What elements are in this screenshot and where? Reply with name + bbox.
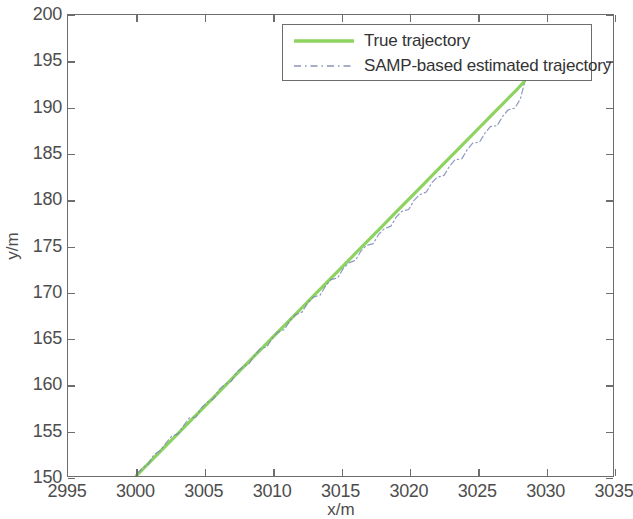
y-tick-label: 165 xyxy=(33,328,62,349)
x-tick-mark xyxy=(273,469,274,476)
x-tick-label: 3010 xyxy=(253,481,292,502)
legend-label-true-trajectory: True trajectory xyxy=(364,31,470,51)
legend-item-estimated-trajectory: SAMP-based estimated trajectory xyxy=(283,53,591,78)
x-tick-mark-top xyxy=(205,15,206,22)
y-tick-mark xyxy=(68,247,75,248)
x-tick-mark-top xyxy=(615,15,616,22)
x-axis-title: x/m xyxy=(327,500,354,519)
y-tick-label: 150 xyxy=(33,467,62,488)
plot-area xyxy=(67,14,614,477)
y-tick-mark-right xyxy=(606,15,613,16)
y-tick-mark-right xyxy=(606,339,613,340)
y-tick-mark xyxy=(68,154,75,155)
y-tick-label: 170 xyxy=(33,281,62,302)
y-tick-mark xyxy=(68,339,75,340)
x-tick-mark-top xyxy=(547,15,548,22)
x-tick-mark-top xyxy=(478,15,479,22)
y-tick-label: 160 xyxy=(33,374,62,395)
legend-label-estimated-trajectory: SAMP-based estimated trajectory xyxy=(364,56,611,76)
y-tick-label: 200 xyxy=(33,4,62,25)
y-tick-label: 190 xyxy=(33,96,62,117)
y-tick-mark-right xyxy=(606,478,613,479)
x-tick-label: 3035 xyxy=(595,481,633,502)
y-tick-mark-right xyxy=(606,293,613,294)
y-tick-label: 155 xyxy=(33,420,62,441)
y-tick-mark-right xyxy=(606,154,613,155)
y-tick-mark-right xyxy=(606,108,613,109)
x-tick-mark-top xyxy=(342,15,343,22)
x-tick-mark xyxy=(205,469,206,476)
legend-line-dashdot-icon xyxy=(293,59,355,73)
x-tick-mark xyxy=(478,469,479,476)
x-tick-mark xyxy=(410,469,411,476)
legend-item-true-trajectory: True trajectory xyxy=(283,28,591,53)
x-tick-label: 3005 xyxy=(184,481,223,502)
x-tick-mark xyxy=(615,469,616,476)
y-tick-mark xyxy=(68,200,75,201)
trajectory-plot xyxy=(68,15,613,476)
y-tick-label: 195 xyxy=(33,50,62,71)
legend-line-solid-icon xyxy=(293,34,355,48)
y-tick-mark xyxy=(68,61,75,62)
x-tick-label: 3015 xyxy=(321,481,360,502)
y-tick-mark xyxy=(68,432,75,433)
x-tick-mark-top xyxy=(273,15,274,22)
x-tick-label: 3020 xyxy=(389,481,428,502)
y-tick-mark-right xyxy=(606,200,613,201)
y-tick-mark xyxy=(68,108,75,109)
y-axis-title: y/m xyxy=(3,232,23,259)
y-tick-mark xyxy=(68,478,75,479)
x-tick-mark-top xyxy=(410,15,411,22)
y-tick-mark xyxy=(68,15,75,16)
x-tick-mark-top xyxy=(136,15,137,22)
x-tick-label: 3025 xyxy=(458,481,497,502)
x-tick-mark xyxy=(136,469,137,476)
y-tick-mark-right xyxy=(606,432,613,433)
y-tick-label: 180 xyxy=(33,189,62,210)
y-tick-mark-right xyxy=(606,247,613,248)
y-tick-label: 175 xyxy=(33,235,62,256)
y-tick-mark xyxy=(68,293,75,294)
y-tick-mark-right xyxy=(606,385,613,386)
y-tick-label: 185 xyxy=(33,142,62,163)
x-tick-label: 3030 xyxy=(526,481,565,502)
x-tick-mark xyxy=(342,469,343,476)
x-tick-mark xyxy=(547,469,548,476)
x-tick-label: 3000 xyxy=(116,481,155,502)
chart-legend: True trajectory SAMP-based estimated tra… xyxy=(282,24,592,81)
y-tick-mark xyxy=(68,385,75,386)
